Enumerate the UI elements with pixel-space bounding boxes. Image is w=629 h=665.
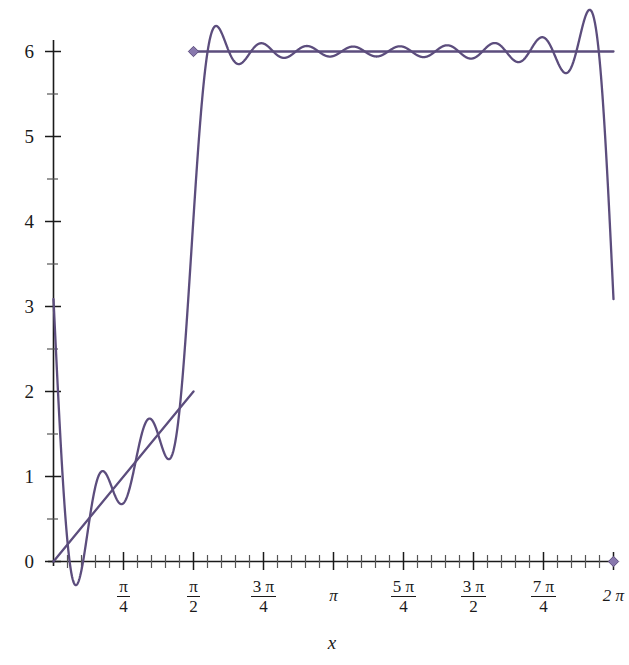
x-tick-denominator: 2 — [461, 597, 486, 615]
right-axis-endpoint-marker — [608, 556, 618, 566]
x-tick-denominator: 4 — [117, 597, 130, 615]
x-tick-numerator: 5 π — [391, 578, 416, 597]
x-tick-label: 7 π4 — [514, 578, 574, 615]
x-tick-text: π — [329, 587, 338, 604]
x-tick-denominator: 4 — [391, 597, 416, 615]
y-tick-label: 5 — [8, 127, 34, 146]
y-tick-label: 6 — [8, 42, 34, 61]
x-tick-numerator: 7 π — [531, 578, 556, 597]
x-tick-label: 5 π4 — [374, 578, 434, 615]
axes-group — [48, 40, 616, 566]
x-tick-label: 3 π2 — [444, 578, 504, 615]
fourier-partial-sum-path — [54, 10, 614, 585]
x-tick-numerator: π — [187, 578, 200, 597]
x-tick-label: π — [304, 585, 364, 604]
x-tick-label: π2 — [164, 578, 224, 615]
x-tick-denominator: 4 — [251, 597, 276, 615]
x-tick-numerator: π — [117, 578, 130, 597]
y-tick-label: 0 — [8, 552, 34, 571]
y-tick-label: 3 — [8, 297, 34, 316]
target-step-function-path — [54, 52, 614, 562]
x-tick-label: π4 — [94, 578, 154, 615]
x-tick-label: 2 π — [584, 585, 629, 604]
x-axis-label: x — [312, 632, 352, 654]
left-step-endpoint-marker — [188, 46, 198, 56]
y-tick-label: 1 — [8, 467, 34, 486]
data-curves — [54, 10, 614, 585]
y-tick-label: 2 — [8, 382, 34, 401]
x-tick-text: 2 π — [603, 587, 624, 604]
endpoint-markers — [188, 46, 618, 566]
x-tick-numerator: 3 π — [461, 578, 486, 597]
x-tick-numerator: 3 π — [251, 578, 276, 597]
x-tick-denominator: 2 — [187, 597, 200, 615]
x-tick-denominator: 4 — [531, 597, 556, 615]
x-tick-label: 3 π4 — [234, 578, 294, 615]
y-tick-label: 4 — [8, 212, 34, 231]
